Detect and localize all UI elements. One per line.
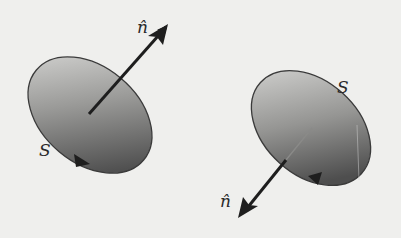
right-normal-label: n̂ — [220, 191, 231, 211]
left-normal-label: n̂ — [137, 17, 148, 37]
right-surface-label: S — [337, 77, 349, 97]
figure-stage: n̂ S S n̂ — [0, 0, 401, 238]
right-normal-arrow — [244, 160, 286, 212]
left-panel: n̂ S — [6, 17, 175, 197]
left-surface-label: S — [39, 140, 51, 160]
left-surface — [6, 33, 175, 197]
right-surface — [229, 48, 393, 209]
oriented-surfaces-diagram: n̂ S S n̂ — [0, 0, 401, 238]
right-panel: S n̂ — [220, 48, 393, 218]
